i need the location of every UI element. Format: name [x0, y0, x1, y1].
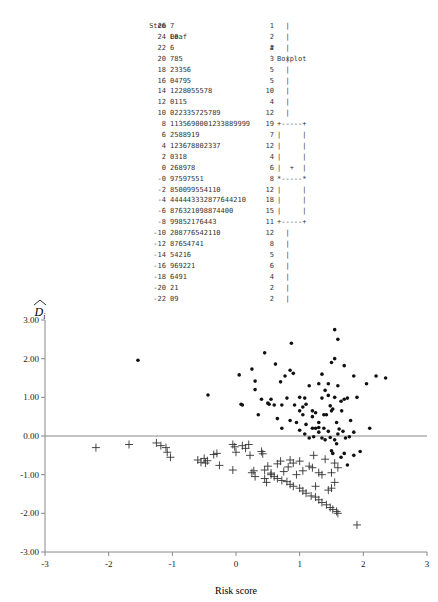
event-dot-marker — [263, 351, 267, 355]
event-dot-marker — [333, 357, 337, 361]
event-dot-marker — [336, 432, 340, 436]
boxplot-segment: | — [277, 272, 290, 283]
stem-leaf-row: 2261 | — [0, 43, 438, 54]
count-value: 6 — [260, 163, 274, 174]
boxplot-segment: | | — [277, 206, 307, 217]
event-dot-marker — [342, 364, 346, 368]
boxplot-segment: | — [277, 43, 290, 54]
stem-leaf-row: 16047955 | — [0, 76, 438, 87]
stem-leaf-row: -1864914 | — [0, 272, 438, 283]
plus-marker — [333, 507, 341, 515]
event-dot-marker — [344, 436, 348, 440]
plus-marker — [250, 467, 258, 475]
event-dot-marker — [314, 411, 318, 415]
count-value: 12 — [260, 185, 274, 196]
plus-marker — [280, 468, 288, 476]
event-dot-marker — [298, 409, 302, 413]
boxplot-segment: | — [277, 97, 290, 108]
stem-leaf-row: 625889197| | — [0, 130, 438, 141]
count-value: 2 — [260, 32, 274, 43]
event-dot-marker — [348, 435, 352, 439]
stem-leaf-header: Stem Leaf # Boxplot — [0, 10, 438, 21]
plus-marker — [261, 475, 269, 483]
plus-marker — [312, 482, 320, 490]
plus-marker — [259, 450, 267, 458]
event-dot-marker — [333, 396, 337, 400]
event-dot-marker — [349, 419, 353, 423]
event-dot-marker — [272, 403, 276, 407]
event-dot-marker — [331, 407, 335, 411]
plus-marker — [296, 457, 304, 465]
boxplot-segment: | — [277, 86, 290, 97]
stem-value: 14 — [140, 86, 166, 97]
event-dot-marker — [304, 423, 308, 427]
x-tick-label: 3 — [425, 559, 430, 569]
stem-leaf-row: -0975975518*-----* — [0, 174, 438, 185]
stem-value: 4 — [140, 141, 166, 152]
event-dot-marker — [311, 409, 315, 413]
event-dot-marker — [374, 374, 378, 378]
event-dot-marker — [328, 404, 332, 408]
event-dot-marker — [260, 397, 264, 401]
event-dot-marker — [337, 427, 341, 431]
event-dot-marker — [328, 436, 332, 440]
stem-leaf-row: -169692216 | — [0, 261, 438, 272]
event-dot-marker — [303, 432, 307, 436]
event-dot-marker — [317, 426, 321, 430]
count-value: 11 — [260, 217, 274, 228]
stem-value: 18 — [140, 65, 166, 76]
event-dot-marker — [311, 415, 315, 419]
event-dot-marker — [279, 380, 283, 384]
x-tick-label: 0 — [234, 559, 239, 569]
x-tick-label: -1 — [169, 559, 177, 569]
event-dot-marker — [285, 396, 289, 400]
stem-leaf-row: 2671 | — [0, 21, 438, 32]
plus-marker — [231, 443, 239, 451]
count-value: 18 — [260, 195, 274, 206]
stem-value: 8 — [140, 119, 166, 130]
stem-leaf-row: -14542165 | — [0, 250, 438, 261]
boxplot-segment: | — [277, 239, 290, 250]
stem-value: 20 — [140, 54, 166, 65]
boxplot-segment: | | — [277, 152, 307, 163]
boxplot-segment: | + | — [277, 163, 307, 174]
event-dot-marker — [288, 368, 292, 372]
stem-value: 10 — [140, 108, 166, 119]
plus-marker — [334, 509, 342, 517]
stem-leaf-row: -285009955411012| | — [0, 185, 438, 196]
axes: 3.002.001.000.00-1.00-2.00-3.00-3-2-1012… — [20, 315, 430, 569]
stem-value: 16 — [140, 76, 166, 87]
stem-value: -16 — [140, 261, 166, 272]
plus-marker — [162, 444, 170, 452]
boxplot-segment: | — [277, 228, 290, 239]
boxplot-segment: | | — [277, 141, 307, 152]
scatter-chart: 3.002.001.000.00-1.00-2.00-3.00-3-2-1012… — [0, 290, 438, 602]
stem-leaf-row: 02689786| + | — [0, 163, 438, 174]
stem-value: -2 — [140, 185, 166, 196]
y-tick-label: -1.00 — [20, 470, 39, 480]
count-value: 4 — [260, 272, 274, 283]
count-value: 10 — [260, 86, 274, 97]
y-axis-label: Di — [34, 305, 46, 321]
event-dot-marker — [256, 413, 260, 417]
event-dot-marker — [336, 384, 340, 388]
stem-value: -8 — [140, 217, 166, 228]
boxplot-segment: +-----+ — [277, 119, 307, 130]
event-dot-marker — [237, 373, 241, 377]
data-points — [92, 328, 387, 529]
stem-value: -6 — [140, 206, 166, 217]
count-value: 3 — [260, 54, 274, 65]
event-dot-marker — [274, 362, 278, 366]
event-dot-marker — [283, 374, 287, 378]
leaf-value: 87654741 — [170, 239, 204, 250]
boxplot-segment: | — [277, 108, 290, 119]
stem-leaf-row: 412367880233712| | — [0, 141, 438, 152]
stem-leaf-row: -1020877654211012 | — [0, 228, 438, 239]
event-dot-marker — [333, 328, 337, 332]
boxplot-segment: *-----* — [277, 174, 307, 185]
event-dot-marker — [317, 421, 321, 425]
leaf-value: 850099554110 — [170, 185, 221, 196]
stem-value: -18 — [140, 272, 166, 283]
leaf-value: 0318 — [170, 152, 187, 163]
event-dot-marker — [330, 361, 334, 365]
